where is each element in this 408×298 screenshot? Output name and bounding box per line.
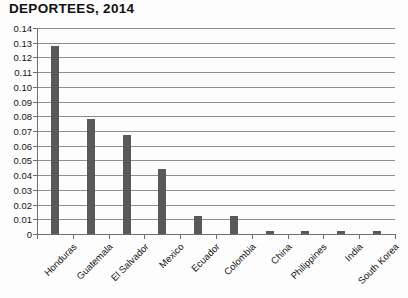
y-tick-label: 0.03 (14, 185, 33, 196)
x-axis-tick-marks (37, 235, 396, 240)
y-tick-label: 0.01 (14, 214, 33, 225)
bar[interactable] (230, 216, 238, 234)
x-tick-label: Mexico (157, 241, 186, 270)
y-tick-label: 0.12 (14, 52, 33, 63)
x-tick-mark (359, 235, 360, 239)
bar[interactable] (51, 46, 59, 234)
bars-layer (37, 28, 395, 234)
x-tick-label: Honduras (42, 241, 79, 278)
y-tick-label: 0.06 (14, 141, 33, 152)
bar-chart: DEPORTEES, 2014 0.140.130.120.110.100.09… (0, 0, 408, 298)
x-tick-label: El Salvador (109, 241, 151, 283)
x-tick-mark (216, 235, 217, 239)
bar[interactable] (373, 231, 381, 234)
x-tick-mark (109, 235, 110, 239)
bar[interactable] (123, 135, 131, 234)
x-axis-tick-labels: HondurasGuatemalaEl SalvadorMexicoEcuado… (37, 241, 408, 298)
bar[interactable] (158, 169, 166, 234)
x-tick-label: Philippines (289, 241, 329, 281)
y-axis-tick-labels: 0.140.130.120.110.100.090.080.070.060.05… (0, 28, 32, 235)
y-tick-label: 0.08 (14, 111, 33, 122)
x-tick-mark (37, 235, 38, 239)
y-tick-label: 0.14 (14, 23, 33, 34)
y-tick-label: 0.10 (14, 82, 33, 93)
bar[interactable] (301, 231, 309, 234)
x-tick-mark (323, 235, 324, 239)
y-tick-label: 0.04 (14, 170, 33, 181)
y-tick-label: 0.05 (14, 155, 33, 166)
x-tick-mark (144, 235, 145, 239)
x-tick-mark (180, 235, 181, 239)
chart-title: DEPORTEES, 2014 (9, 1, 134, 16)
bar[interactable] (337, 231, 345, 234)
bar[interactable] (266, 231, 274, 234)
x-tick-mark (288, 235, 289, 239)
y-tick-label: 0.11 (14, 67, 32, 78)
y-tick-label: 0 (27, 229, 32, 240)
x-tick-label: Ecuador (189, 241, 222, 274)
bar[interactable] (87, 119, 95, 234)
y-tick-label: 0.09 (14, 97, 33, 108)
x-tick-label: China (268, 241, 293, 266)
x-tick-label: India (342, 241, 364, 263)
x-tick-mark (73, 235, 74, 239)
x-tick-mark (395, 235, 396, 239)
x-tick-label: Colombia (222, 241, 258, 277)
y-tick-label: 0.02 (14, 200, 33, 211)
bar[interactable] (194, 216, 202, 234)
x-tick-mark (252, 235, 253, 239)
y-tick-label: 0.13 (14, 38, 33, 49)
y-tick-label: 0.07 (14, 126, 33, 137)
